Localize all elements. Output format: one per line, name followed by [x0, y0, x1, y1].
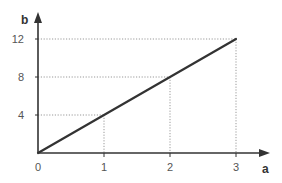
y-tick-label: 12 [12, 33, 24, 45]
x-tick-label: 0 [35, 161, 41, 173]
data-line [38, 39, 236, 153]
line-chart: 01234812 b a [0, 0, 282, 183]
x-axis-title: a [262, 162, 269, 176]
x-tick-label: 3 [233, 161, 239, 173]
y-axis-title: b [21, 13, 28, 27]
data-series [38, 39, 236, 153]
x-axis-arrow-icon [259, 149, 270, 157]
y-tick-label: 4 [18, 109, 24, 121]
x-tick-label: 1 [101, 161, 107, 173]
y-axis-arrow-icon [34, 12, 42, 23]
x-tick-label: 2 [167, 161, 173, 173]
y-tick-label: 8 [18, 71, 24, 83]
